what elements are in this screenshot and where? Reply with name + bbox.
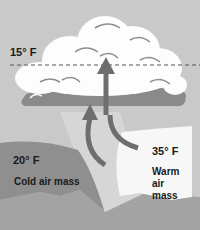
warm-air-mass-label-line2: air [152, 178, 164, 189]
cold-temperature-label: 20° F [13, 155, 39, 166]
top-temperature-label: 15° F [10, 47, 36, 58]
diagram-canvas: 15° F 20° F 35° F Cold air mass Warm air… [0, 0, 200, 230]
warm-temperature-label: 35° F [152, 146, 178, 157]
cold-air-mass-label: Cold air mass [14, 176, 80, 187]
warm-air-mass-label-line1: Warm [152, 166, 179, 177]
warm-air-mass-label-line3: mass [152, 190, 178, 201]
